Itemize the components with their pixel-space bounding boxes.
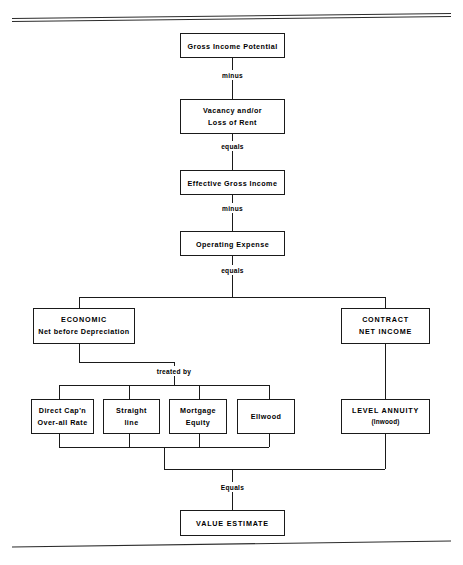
edge-label-equals-2: equals [221, 267, 244, 275]
node-label-level-annuity-line2: (Inwood) [371, 418, 399, 426]
node-operating-expense[interactable]: Operating Expense [181, 232, 285, 256]
node-effective-gross-income[interactable]: Effective Gross Income [181, 171, 285, 195]
edge-label-treated-by: treated by [157, 368, 192, 376]
edge-label-minus-1: minus [222, 72, 243, 79]
node-economic[interactable]: ECONOMIC Net before Depreciation [34, 309, 135, 344]
node-label-ellwood: Ellwood [251, 412, 282, 421]
node-label-contract-line1: CONTRACT [362, 315, 409, 324]
bottom-rule [12, 541, 451, 547]
node-label-straight-line-line2: line [124, 418, 138, 427]
flowchart-diagram: Gross Income Potential Vacancy and/or Lo… [0, 0, 463, 565]
node-label-economic-line1: ECONOMIC [61, 315, 107, 324]
edge-label-equals-1: equals [221, 143, 244, 151]
node-label-vacancy-line1: Vacancy and/or [203, 106, 262, 115]
edge-label-minus-2: minus [222, 205, 243, 212]
node-label-mortgage-equity-line2: Equity [186, 418, 211, 427]
node-ellwood[interactable]: Ellwood [238, 400, 295, 434]
node-label-level-annuity-line1: LEVEL ANNUITY [352, 406, 419, 415]
node-straight-line[interactable]: Straight line [104, 400, 160, 434]
node-label-gross-income-potential: Gross Income Potential [187, 42, 277, 51]
node-vacancy[interactable]: Vacancy and/or Loss of Rent [181, 100, 285, 134]
node-label-direct-cap-line2: Over-all Rate [37, 418, 87, 427]
node-label-economic-line2: Net before Depreciation [38, 327, 129, 336]
node-value-estimate[interactable]: VALUE ESTIMATE [181, 511, 285, 536]
node-contract-net-income[interactable]: CONTRACT NET INCOME [342, 309, 430, 344]
node-label-vacancy-line2: Loss of Rent [208, 118, 257, 127]
node-label-direct-cap-line1: Direct Cap'n [39, 406, 86, 415]
node-label-contract-line2: NET INCOME [359, 327, 412, 336]
node-mortgage-equity[interactable]: Mortgage Equity [170, 400, 227, 434]
edge-label-equals-final: Equals [221, 484, 244, 492]
node-label-operating-expense: Operating Expense [196, 240, 269, 249]
node-label-value-estimate: VALUE ESTIMATE [196, 519, 269, 528]
node-label-effective-gross-income: Effective Gross Income [188, 179, 278, 188]
node-direct-cap[interactable]: Direct Cap'n Over-all Rate [32, 400, 94, 434]
node-label-mortgage-equity-line1: Mortgage [180, 406, 216, 415]
node-level-annuity[interactable]: LEVEL ANNUITY (Inwood) [342, 400, 430, 434]
node-label-straight-line-line1: Straight [116, 406, 147, 415]
node-gross-income-potential[interactable]: Gross Income Potential [181, 34, 285, 58]
top-rule [12, 14, 451, 22]
